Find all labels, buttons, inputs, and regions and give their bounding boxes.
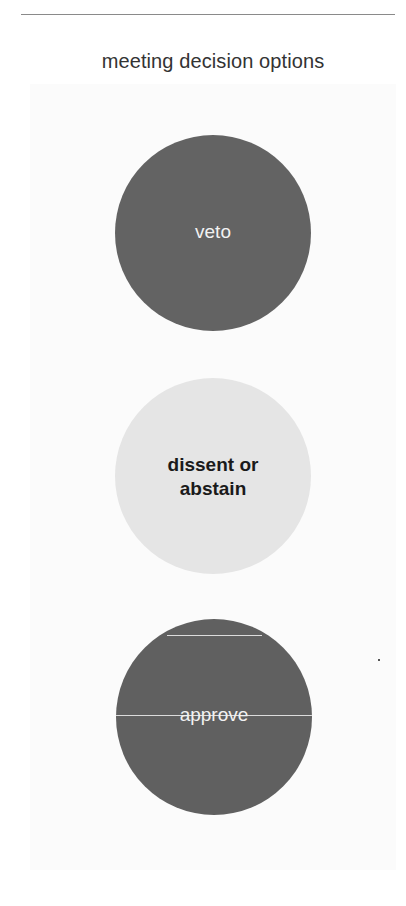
option-dissent-circle: dissent or abstain: [115, 378, 311, 574]
diagram-title: meeting decision options: [0, 50, 406, 73]
option-dissent-label-line1: dissent or: [168, 454, 259, 475]
option-veto-label: veto: [195, 220, 231, 244]
stray-dot: [378, 659, 380, 661]
option-approve-circle: approve: [116, 619, 312, 815]
option-approve-label: approve: [180, 703, 249, 727]
scan-artifact-line: [167, 635, 262, 636]
option-veto-circle: veto: [115, 135, 311, 331]
top-divider: [21, 14, 395, 15]
option-dissent-label: dissent or abstain: [168, 453, 259, 501]
option-dissent-label-line2: abstain: [180, 478, 247, 499]
